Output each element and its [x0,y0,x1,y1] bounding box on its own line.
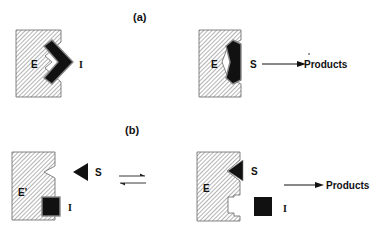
inhibitor-label: I [68,202,72,213]
products-label: Products [304,59,348,70]
panel-a-right-enzyme-substrate-complex: E S Products [199,30,348,97]
panel-b-right-enzyme-substrate-complex: S E I Products [197,152,370,221]
substrate-label: S [250,59,257,70]
products-label: Products [326,180,370,191]
inhibitor-square-icon [254,197,272,216]
curved-substrate-icon [226,40,241,84]
enzyme-label: E [31,59,38,70]
equilibrium-arrows-icon [119,174,146,186]
dot-mark [308,53,310,55]
panel-a-label: (a) [133,11,147,23]
reaction-arrow-icon [284,182,324,188]
enzyme-inhibition-diagram: (a) E I E S Products (b) S E' I [0,0,383,232]
panel-a-left-enzyme-inhibitor-complex: E I [16,30,83,97]
panel-b-label: (b) [125,124,139,136]
substrate-label: S [95,167,102,178]
inhibitor-label: I [283,203,287,214]
inhibitor-square-icon [42,197,60,216]
enzyme-label: E' [18,187,27,198]
enzyme-label: E [203,183,210,194]
reaction-arrow-icon [262,61,306,67]
panel-b-left-free-species: S E' I [12,152,102,220]
inhibitor-label: I [79,59,83,70]
triangle-substrate-icon [73,163,88,181]
enzyme-label: E [211,59,218,70]
substrate-label: S [251,166,258,177]
enzyme-block [16,30,61,97]
